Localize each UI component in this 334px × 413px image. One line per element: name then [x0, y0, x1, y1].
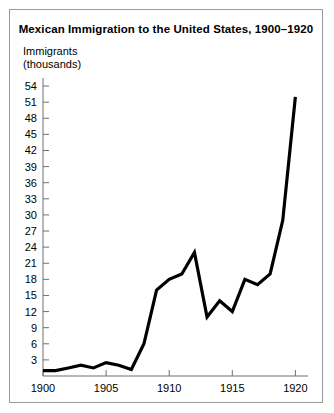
y-tick-label: 12: [25, 306, 37, 318]
y-tick-label: 30: [25, 209, 37, 221]
y-tick-label: 3: [31, 354, 37, 366]
y-tick-label: 33: [25, 193, 37, 205]
y-tick-label: 42: [25, 144, 37, 156]
y-tick-label: 21: [25, 257, 37, 269]
x-tick-label: 1915: [220, 382, 244, 394]
y-tick-label: 51: [25, 96, 37, 108]
y-tick-label: 18: [25, 273, 37, 285]
y-tick-label: 24: [25, 241, 37, 253]
y-tick-label: 36: [25, 177, 37, 189]
y-tick-label: 27: [25, 225, 37, 237]
x-tick-label: 1905: [94, 382, 118, 394]
y-tick-label: 6: [31, 338, 37, 350]
x-axis-ticks: 19001905191019151920: [31, 370, 308, 394]
y-tick-label: 48: [25, 112, 37, 124]
x-tick-label: 1900: [31, 382, 55, 394]
plot-area: 369121518212427303336394245485154 190019…: [10, 10, 324, 404]
x-tick-label: 1920: [283, 382, 307, 394]
y-tick-label: 39: [25, 161, 37, 173]
line-chart-svg: 369121518212427303336394245485154 190019…: [10, 10, 324, 404]
y-tick-label: 54: [25, 80, 37, 92]
y-tick-label: 45: [25, 128, 37, 140]
y-tick-label: 9: [31, 322, 37, 334]
immigration-series-line: [43, 97, 295, 371]
y-tick-label: 15: [25, 289, 37, 301]
x-tick-label: 1910: [157, 382, 181, 394]
y-axis-ticks: 369121518212427303336394245485154: [25, 80, 49, 366]
chart-figure: Mexican Immigration to the United States…: [9, 9, 323, 403]
